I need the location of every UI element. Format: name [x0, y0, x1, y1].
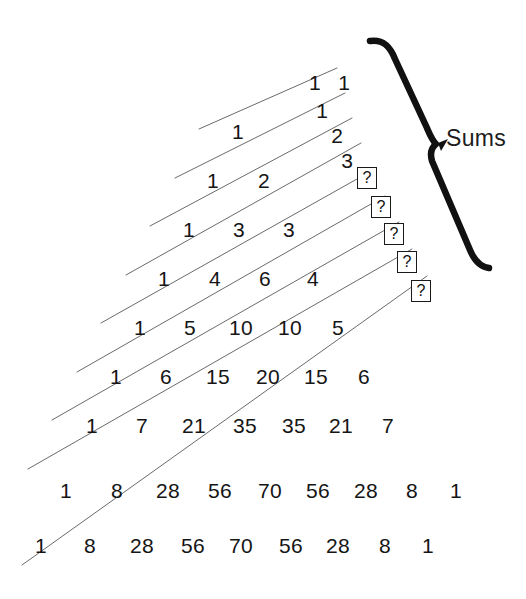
sums-brace-icon — [0, 0, 526, 599]
figure-canvas: 1 1 1 2 1 3 3 1 4 6 4 1 5 10 10 5 1 6 15… — [0, 0, 526, 599]
sums-label: Sums — [446, 127, 506, 150]
